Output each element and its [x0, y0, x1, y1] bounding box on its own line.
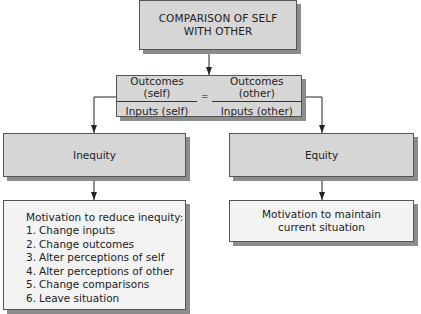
inequity-box: Inequity [3, 133, 186, 177]
list-item: 3.Alter perceptions of self [26, 251, 185, 265]
list-item: 1.Change inputs [26, 224, 185, 238]
reduce-inequity-box: Motivation to reduce inequity: 1.Change … [3, 200, 186, 310]
maintain-line-2: current situation [262, 221, 381, 234]
list-item: 4.Alter perceptions of other [26, 265, 185, 279]
self-ratio: Outcomes (self) Inputs (self) [117, 75, 197, 117]
comparison-box: COMPARISON OF SELF WITH OTHER [139, 0, 297, 50]
comparison-line-1: COMPARISON OF SELF [159, 12, 278, 25]
other-ratio: Outcomes (other) Inputs (other) [212, 75, 301, 117]
equity-label: Equity [305, 149, 338, 162]
list-item: 2.Change outcomes [26, 238, 185, 252]
equity-box: Equity [229, 133, 414, 177]
arrow-equation-to-equity [302, 97, 322, 133]
arrow-equation-to-inequity [94, 97, 116, 133]
maintain-line-1: Motivation to maintain [262, 208, 381, 221]
reduce-inequity-heading: Motivation to reduce inequity: [26, 211, 185, 224]
reduce-inequity-list: 1.Change inputs 2.Change outcomes 3.Alte… [26, 224, 185, 305]
equals-sign: = [201, 91, 209, 101]
list-item: 6.Leave situation [26, 292, 185, 306]
outcomes-other: Outcomes (other) [212, 75, 301, 102]
inequity-label: Inequity [73, 149, 116, 162]
maintain-situation-box: Motivation to maintain current situation [229, 200, 414, 242]
equation-box: Outcomes (self) Inputs (self) = Outcomes… [116, 75, 302, 117]
inputs-self: Inputs (self) [126, 102, 189, 117]
outcomes-self: Outcomes (self) [117, 75, 197, 102]
inputs-other: Inputs (other) [221, 102, 293, 117]
comparison-line-2: WITH OTHER [159, 25, 278, 38]
list-item: 5.Change comparisons [26, 278, 185, 292]
